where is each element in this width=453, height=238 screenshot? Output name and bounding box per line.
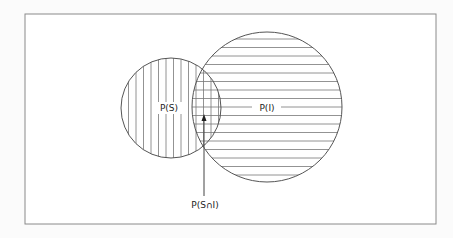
set-s-label: P(S) (160, 103, 178, 113)
diagram-frame (25, 14, 436, 224)
intersection-label: P(S∩I) (191, 200, 218, 210)
venn-diagram: P(S) P(I) P(S∩I) (0, 0, 453, 238)
set-i-label: P(I) (259, 103, 274, 113)
diagram-canvas: P(S) P(I) P(S∩I) (0, 0, 453, 238)
